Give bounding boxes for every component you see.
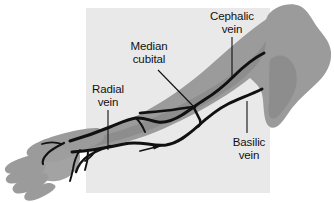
vein-anatomy-figure: Cephalic vein Median cubital Radial vein… bbox=[0, 0, 334, 203]
deltoid-shading bbox=[268, 56, 296, 119]
anatomy-illustration bbox=[0, 0, 334, 203]
label-basilic-vein-line1: Basilic bbox=[220, 136, 278, 149]
label-radial-vein-line2: vein bbox=[79, 96, 137, 109]
label-cephalic-vein-line2: vein bbox=[198, 23, 266, 36]
label-median-cubital-line1: Median bbox=[118, 40, 180, 53]
label-cephalic-vein: Cephalic vein bbox=[198, 10, 266, 35]
label-median-cubital-line2: cubital bbox=[118, 53, 180, 66]
label-basilic-vein: Basilic vein bbox=[220, 136, 278, 161]
label-radial-vein-line1: Radial bbox=[79, 83, 137, 96]
label-median-cubital: Median cubital bbox=[118, 40, 180, 65]
label-radial-vein: Radial vein bbox=[79, 83, 137, 108]
label-cephalic-vein-line1: Cephalic bbox=[198, 10, 266, 23]
label-basilic-vein-line2: vein bbox=[220, 149, 278, 162]
